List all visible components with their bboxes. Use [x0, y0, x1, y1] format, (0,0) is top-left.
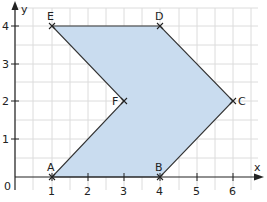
- x-axis-label: x: [254, 161, 261, 174]
- y-tick-1: 1: [2, 133, 9, 146]
- point-label-a: A: [47, 161, 55, 174]
- x-tick-6: 6: [229, 185, 236, 198]
- x-axis-arrow-icon: [254, 174, 264, 181]
- point-label-f: F: [112, 95, 118, 108]
- coordinate-grid: 1 2 3 4 5 6 1 2 3 4 0 x y A B C D E F: [0, 0, 267, 202]
- y-tick-2: 2: [2, 95, 9, 108]
- y-tick-4: 4: [2, 20, 9, 33]
- point-label-d: D: [155, 10, 163, 23]
- y-tick-3: 3: [2, 58, 9, 71]
- point-label-c: C: [238, 95, 246, 108]
- point-label-b: B: [155, 161, 163, 174]
- x-tick-5: 5: [193, 185, 200, 198]
- origin-label: 0: [4, 180, 11, 193]
- x-tick-3: 3: [120, 185, 127, 198]
- x-tick-4: 4: [156, 185, 163, 198]
- y-axis-arrow-icon: [12, 1, 19, 10]
- x-tick-2: 2: [84, 185, 91, 198]
- y-axis-label: y: [21, 3, 28, 16]
- x-tick-1: 1: [48, 185, 55, 198]
- point-label-e: E: [47, 10, 54, 23]
